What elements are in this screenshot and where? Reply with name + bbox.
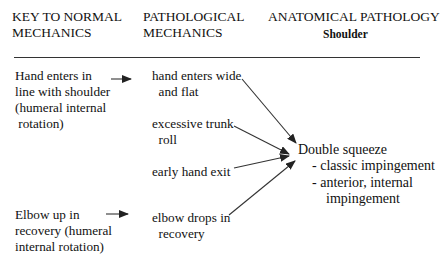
arrow-early-exit — [234, 156, 289, 168]
arrow-trunk-roll — [234, 126, 289, 154]
arrow-elbow-drops — [229, 161, 295, 215]
arrow-wide-flat — [242, 79, 296, 143]
arrows-layer — [0, 0, 448, 259]
